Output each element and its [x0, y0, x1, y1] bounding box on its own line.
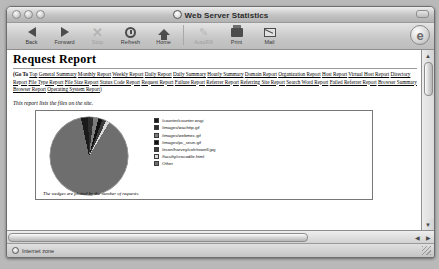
title-divider [13, 68, 417, 69]
window-controls[interactable] [12, 10, 45, 19]
print-button-label: Print [231, 39, 242, 45]
scroll-right-icon[interactable]: ▶ [423, 232, 434, 243]
nav-link[interactable]: Virtual Host Report [348, 71, 389, 77]
report-description: This report lists the files on the site. [13, 100, 417, 106]
legend-label: /counter/counter.wsgi [162, 118, 204, 123]
home-button[interactable]: Home [147, 24, 180, 45]
legend-swatch [154, 161, 159, 166]
status-bar: Internet zone [7, 243, 434, 257]
nav-link[interactable]: Domain Report [245, 71, 277, 77]
legend-swatch [154, 125, 159, 130]
nav-link[interactable]: Failure Report [175, 79, 205, 85]
stop-x-icon: ✕ [92, 25, 103, 39]
zoom-button[interactable] [36, 10, 45, 19]
vertical-scrollbar[interactable]: ▲ ▼ [421, 50, 434, 230]
refresh-button-label: Refresh [121, 39, 140, 45]
window-title: Web Server Statistics [7, 10, 434, 20]
nav-link[interactable]: File Size Report [65, 79, 99, 85]
nav-link[interactable]: Operating System Report [47, 86, 100, 92]
legend-item: /images/pc_snun.gif [154, 139, 215, 145]
nav-link[interactable]: Referring Site Report [240, 79, 285, 85]
legend-swatch [154, 140, 159, 145]
toolbar-toggle-button[interactable] [416, 10, 429, 18]
nav-link-list: Top General Summary Monthly Report Weekl… [13, 71, 417, 92]
legend-label: /images/wachttp.gif [162, 125, 200, 130]
window-title-text: Web Server Statistics [185, 11, 269, 20]
scroll-left-icon[interactable]: ◀ [412, 232, 423, 243]
nav-link[interactable]: Hourly Summary [207, 71, 243, 77]
vertical-scroll-thumb[interactable] [424, 62, 433, 96]
legend-item: Other [154, 161, 215, 167]
nav-link[interactable]: Request Report [141, 79, 173, 85]
title-bar[interactable]: Web Server Statistics [7, 7, 434, 23]
legend-swatch [154, 133, 159, 138]
nav-link[interactable]: Referrer Report [206, 79, 239, 85]
mail-icon [264, 25, 276, 39]
nav-link[interactable]: Host Report [322, 71, 347, 77]
chart-inner: /counter/counter.wsgi/images/wachttp.gif… [36, 111, 372, 199]
legend-label: /econ/harvey/cofr/rowell.jpg [162, 147, 215, 152]
nav-link[interactable]: Organization Report [278, 71, 320, 77]
nav-link[interactable]: Browser Report [13, 86, 46, 92]
nav-link[interactable]: Search Word Report [286, 79, 328, 85]
stop-button: ✕ Stop [81, 24, 114, 45]
browser-window: Web Server Statistics Back Forward ✕ Sto… [6, 6, 435, 258]
legend-item: /econ/harvey/cofr/rowell.jpg [154, 147, 215, 153]
nav-link[interactable]: Browser Summary [378, 79, 417, 85]
browser-toolbar: Back Forward ✕ Stop Refresh Home ✎ AutoF… [7, 23, 434, 50]
nav-link[interactable]: Monthly Report [78, 71, 111, 77]
home-icon [158, 25, 170, 39]
legend-label: /images/webmec.gif [162, 133, 201, 138]
page-content: Request Report (Go To Top General Summar… [7, 50, 421, 230]
nav-link[interactable]: Failed Referrer Report [330, 79, 377, 85]
autofill-pen-icon: ✎ [199, 25, 208, 39]
browser-logo-icon[interactable]: e [410, 25, 430, 45]
legend-swatch [154, 154, 159, 159]
goto-nav: (Go To Top General Summary Monthly Repor… [13, 71, 417, 94]
legend-item: /counter/counter.wsgi [154, 118, 215, 124]
globe-icon [173, 10, 182, 19]
legend-swatch [154, 118, 159, 123]
resize-grip[interactable] [422, 246, 431, 255]
nav-link[interactable]: General Summary [39, 71, 77, 77]
horizontal-scrollbar[interactable]: ◀ ▶ [7, 230, 434, 243]
back-button[interactable]: Back [15, 24, 48, 45]
horizontal-scroll-track[interactable] [308, 232, 412, 243]
scroll-down-icon[interactable]: ▼ [423, 219, 434, 230]
status-zone-label: Internet zone [22, 248, 54, 254]
back-arrow-icon [28, 25, 36, 39]
forward-button-label: Forward [54, 39, 74, 45]
goto-label: (Go To [13, 71, 28, 77]
refresh-icon [125, 25, 136, 39]
nav-link[interactable]: Weekly Report [112, 71, 143, 77]
chart-legend: /counter/counter.wsgi/images/wachttp.gif… [154, 118, 215, 167]
nav-link[interactable]: File Type Report [28, 79, 63, 85]
legend-item: /faculty/crocodile.html [154, 154, 215, 160]
nav-link[interactable]: Status Code Report [100, 79, 140, 85]
close-button[interactable] [12, 10, 21, 19]
print-button[interactable]: Print [220, 24, 253, 45]
mail-button[interactable]: Mail [253, 24, 286, 45]
refresh-button[interactable]: Refresh [114, 24, 147, 45]
nav-link[interactable]: Daily Report [145, 71, 172, 77]
back-button-label: Back [25, 39, 37, 45]
autofill-button: ✎ AutoFill [187, 24, 220, 45]
globe-icon [12, 247, 19, 254]
autofill-button-label: AutoFill [194, 39, 212, 45]
printer-icon [231, 25, 243, 39]
forward-arrow-icon [61, 25, 69, 39]
minimize-button[interactable] [24, 10, 33, 19]
legend-item: /images/webmec.gif [154, 132, 215, 138]
nav-link[interactable]: Daily Summary [173, 71, 206, 77]
pie-chart [50, 117, 128, 195]
legend-swatch [154, 147, 159, 152]
toolbar-divider [183, 25, 184, 45]
forward-button[interactable]: Forward [48, 24, 81, 45]
chart-caption: The wedges are plotted by the number of … [43, 191, 139, 196]
legend-item: /images/wachttp.gif [154, 125, 215, 131]
chart-container: /counter/counter.wsgi/images/wachttp.gif… [35, 110, 373, 200]
vertical-scroll-track[interactable] [423, 96, 434, 219]
horizontal-scroll-thumb[interactable] [8, 233, 308, 242]
nav-link[interactable]: Top [29, 71, 37, 77]
scroll-up-icon[interactable]: ▲ [423, 50, 434, 61]
